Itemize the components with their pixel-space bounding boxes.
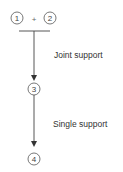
node-1: 1	[11, 12, 23, 24]
join-symbol: +	[32, 15, 37, 24]
node-4: 4	[28, 153, 40, 165]
node-3: 3	[28, 83, 40, 95]
node-2: 2	[44, 12, 56, 24]
node-2-label: 2	[48, 14, 53, 23]
joint-support-label: Joint support	[54, 50, 103, 60]
node-3-label: 3	[32, 85, 37, 94]
support-diagram: 1 + 2 Joint support 3 Single support 4	[0, 0, 123, 172]
node-4-label: 4	[32, 155, 37, 164]
node-1-label: 1	[15, 14, 20, 23]
single-support-label: Single support	[53, 119, 108, 129]
